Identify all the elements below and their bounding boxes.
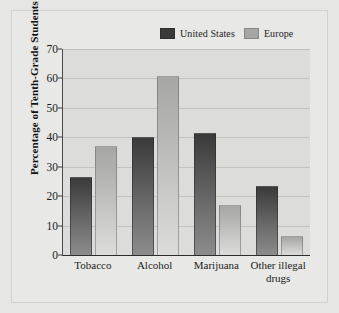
x-label-tobacco: Tobacco (62, 259, 124, 285)
bar-europe-alcohol (157, 76, 179, 256)
bar-united-states-alcohol (132, 137, 154, 255)
y-tick-label: 70 (24, 43, 58, 55)
y-tick-label: 0 (24, 249, 58, 261)
x-label-other-line1: Other illegal (250, 259, 305, 271)
legend-label-united-states: United States (180, 28, 235, 39)
y-tick-label: 20 (24, 190, 58, 202)
y-tick-label: 50 (24, 102, 58, 114)
x-axis-labels: Tobacco Alcohol Marijuana Other illegal … (62, 259, 309, 285)
plot-area (62, 49, 310, 256)
bar-group (63, 49, 125, 255)
x-label-alcohol: Alcohol (124, 259, 186, 285)
bar-groups (63, 49, 310, 255)
y-axis-ticks: 010203040506070 (20, 49, 58, 255)
chart-legend: United States Europe (160, 26, 293, 40)
legend-label-europe: Europe (264, 28, 293, 39)
legend-item-united-states: United States (160, 28, 235, 39)
bar-europe-marijuana (219, 205, 241, 255)
legend-item-europe: Europe (244, 28, 293, 39)
legend-swatch-united-states (160, 28, 175, 39)
bar-group (248, 49, 310, 255)
bar-united-states-marijuana (194, 133, 216, 255)
bar-united-states-tobacco (70, 177, 92, 255)
bar-group (187, 49, 249, 255)
x-label-other-illegal-drugs: Other illegal drugs (247, 259, 309, 285)
bar-europe-other-illegal-drugs (281, 236, 303, 255)
bar-europe-tobacco (95, 146, 117, 255)
bar-united-states-other-illegal-drugs (256, 186, 278, 255)
x-label-other-line2: drugs (266, 272, 290, 284)
legend-swatch-europe (244, 28, 259, 39)
y-tick-label: 40 (24, 131, 58, 143)
x-label-marijuana: Marijuana (186, 259, 248, 285)
y-tick-label: 10 (24, 220, 58, 232)
bar-chart-figure: United States Europe Percentage of Tenth… (0, 0, 339, 313)
y-tick-label: 60 (24, 72, 58, 84)
y-tick-label: 30 (24, 161, 58, 173)
bar-group (125, 49, 187, 255)
